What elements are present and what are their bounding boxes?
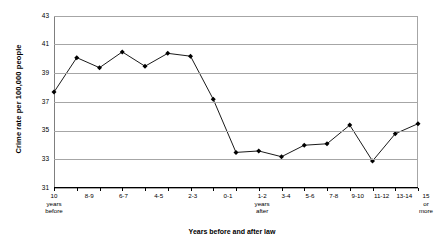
gridline	[54, 131, 418, 132]
y-axis-tick-label: 37	[42, 99, 49, 106]
x-axis-tick-label: 15ormore	[404, 192, 438, 215]
x-axis-tick-mark	[168, 188, 169, 191]
x-axis-tick-label-line: years	[32, 200, 76, 208]
data-point-marker	[234, 150, 239, 155]
x-axis-tick-mark	[122, 188, 123, 191]
gridline	[54, 44, 418, 45]
y-axis-tick-label: 43	[42, 13, 49, 20]
data-point-marker	[256, 148, 261, 153]
x-axis-tick-mark	[304, 188, 305, 191]
x-axis-tick-mark	[236, 188, 237, 191]
x-axis-tick-mark	[213, 188, 214, 191]
x-axis-title: Years before and after law	[0, 228, 438, 235]
data-point-marker	[188, 53, 193, 58]
y-axis-title: Crime rate per 100,000 people	[10, 24, 26, 174]
data-point-marker	[74, 55, 79, 60]
x-axis-tick-label-line: or	[404, 200, 438, 208]
y-axis-tick-label: 41	[42, 41, 49, 48]
data-point-marker	[302, 142, 307, 147]
x-axis-tick-mark	[373, 188, 374, 191]
data-point-marker	[279, 154, 284, 159]
crime-rate-line-chart: Crime rate per 100,000 people 4341393735…	[0, 0, 438, 246]
x-axis-tick-labels: 10yearsbefore8-96-74-52-30-11-2yearsafte…	[54, 192, 418, 232]
x-axis-tick-mark	[77, 188, 78, 191]
x-axis-tick-label-line: before	[32, 207, 76, 215]
x-axis-tick-mark	[418, 188, 419, 191]
y-axis-title-label: Crime rate per 100,000 people	[14, 44, 23, 153]
data-point-marker	[143, 63, 148, 68]
series-line	[54, 52, 418, 161]
x-axis-tick-mark	[100, 188, 101, 191]
x-axis-tick-mark	[145, 188, 146, 191]
gridline	[54, 102, 418, 103]
data-point-marker	[416, 121, 421, 126]
x-axis-tick-mark	[282, 188, 283, 191]
x-axis-title-label: Years before and after law	[189, 228, 276, 235]
x-axis-tick-mark	[327, 188, 328, 191]
x-axis-tick-mark	[350, 188, 351, 191]
x-axis-tick-label-line: after	[240, 207, 284, 215]
x-axis-tick-mark	[191, 188, 192, 191]
gridline	[54, 159, 418, 160]
y-axis-tick-label: 31	[42, 185, 49, 192]
x-axis-tick-label-line: more	[404, 207, 438, 215]
y-axis-tick-label: 39	[42, 70, 49, 77]
x-axis-tick-mark	[259, 188, 260, 191]
x-axis-tick-mark	[54, 188, 55, 191]
gridline	[54, 73, 418, 74]
plot-area	[54, 16, 418, 188]
y-axis-tick-label: 33	[42, 156, 49, 163]
gridline	[54, 16, 418, 17]
data-point-marker	[52, 89, 57, 94]
y-axis-tick-label: 35	[42, 127, 49, 134]
data-point-marker	[165, 51, 170, 56]
x-axis-tick-mark	[395, 188, 396, 191]
x-axis-tick-label-line: years	[240, 200, 284, 208]
x-axis-tick-label-line: 15	[404, 192, 438, 200]
data-point-marker	[211, 96, 216, 101]
